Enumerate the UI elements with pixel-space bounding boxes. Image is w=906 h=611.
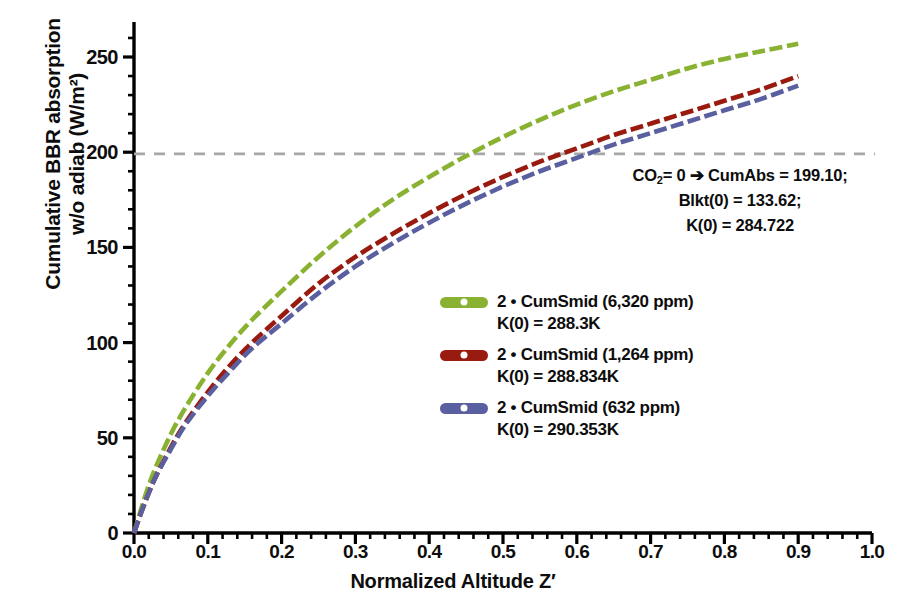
legend-swatch-dot-icon (461, 352, 468, 359)
legend-sublabel: K(0) = 290.353K (497, 420, 694, 440)
annotation-cumabs-text: = 0 ➔ CumAbs = 199.10; (663, 166, 848, 184)
annotation-co2-label: CO (632, 166, 656, 184)
annotation-line-3: K(0) = 284.722 (590, 213, 890, 238)
legend-label: 2 • CumSmid (1,264 ppm) (497, 345, 694, 365)
legend-row: 2 • CumSmid (6,320 ppm) (440, 291, 694, 313)
chart-container: Cumulative BBR absorption w/o adiab (W/m… (0, 0, 906, 611)
legend-label: 2 • CumSmid (632 ppm) (497, 398, 680, 418)
chart-legend: 2 • CumSmid (6,320 ppm)K(0) = 288.3K2 • … (440, 291, 694, 450)
legend-sublabel: K(0) = 288.834K (497, 367, 694, 387)
legend-swatch-dot-icon (461, 299, 468, 306)
legend-entry-3[interactable]: 2 • CumSmid (632 ppm)K(0) = 290.353K (440, 397, 694, 440)
legend-swatch-icon (440, 297, 488, 308)
legend-entry-1[interactable]: 2 • CumSmid (6,320 ppm)K(0) = 288.3K (440, 291, 694, 334)
legend-label: 2 • CumSmid (6,320 ppm) (497, 292, 694, 312)
legend-row: 2 • CumSmid (632 ppm) (440, 397, 694, 419)
legend-swatch-icon (440, 350, 488, 361)
legend-sublabel: K(0) = 288.3K (497, 314, 694, 334)
legend-row: 2 • CumSmid (1,264 ppm) (440, 344, 694, 366)
data-curves-group (134, 44, 798, 533)
annotation-co2-subscript: 2 (657, 174, 663, 186)
annotation-line-2: Blkt(0) = 133.62; (590, 188, 890, 213)
legend-swatch-icon (440, 403, 488, 414)
legend-swatch-dot-icon (461, 405, 468, 412)
annotation-line-1: CO2= 0 ➔ CumAbs = 199.10; (590, 163, 890, 188)
legend-entry-2[interactable]: 2 • CumSmid (1,264 ppm)K(0) = 288.834K (440, 344, 694, 387)
annotation-text-block: CO2= 0 ➔ CumAbs = 199.10; Blkt(0) = 133.… (590, 163, 890, 238)
